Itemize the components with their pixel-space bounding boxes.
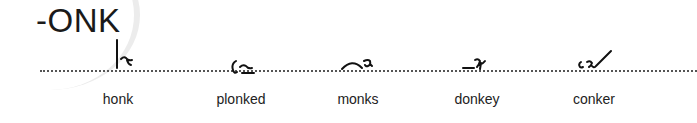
shorthand-monks-icon [298, 34, 418, 74]
word-label: monks [298, 91, 418, 107]
shorthand-honk-icon [58, 34, 178, 74]
word-label: plonked [181, 91, 301, 107]
shorthand-conker-icon [534, 34, 654, 74]
shorthand-plonked-icon [181, 34, 301, 74]
word-label: honk [58, 91, 178, 107]
word-label: conker [534, 91, 654, 107]
shorthand-donkey-icon [417, 34, 537, 74]
word-label: donkey [417, 91, 537, 107]
